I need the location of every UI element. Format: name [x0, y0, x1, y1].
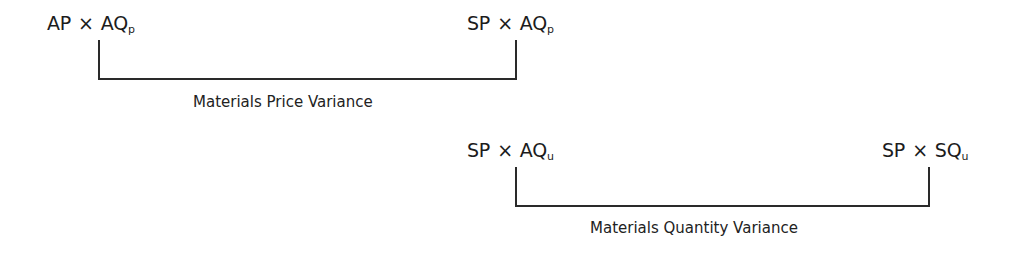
subscript-u: u [961, 150, 968, 163]
factor-aq: AQ [520, 12, 547, 34]
quantity-bracket-left-line [515, 167, 517, 207]
price-bracket-right-line [515, 40, 517, 80]
materials-price-variance-label: Materials Price Variance [193, 93, 373, 111]
price-bracket-left-line [98, 40, 100, 80]
subscript-u: u [547, 150, 554, 163]
factor-sp: SP [467, 139, 490, 161]
quantity-bracket-bottom-line [515, 205, 930, 207]
factor-aq: AQ [520, 139, 547, 161]
factor-sp: SP [882, 139, 905, 161]
term-ap-x-aqp: AP×AQp [47, 12, 135, 41]
term-sp-x-aqp: SP×AQp [467, 12, 554, 41]
subscript-p: p [547, 23, 554, 36]
factor-sp: SP [467, 12, 490, 34]
multiply-sign: × [497, 12, 513, 34]
term-sp-x-squ: SP×SQu [882, 139, 968, 168]
multiply-sign: × [912, 139, 928, 161]
factor-ap: AP [47, 12, 71, 34]
price-bracket-bottom-line [98, 78, 517, 80]
quantity-bracket-right-line [928, 167, 930, 207]
multiply-sign: × [497, 139, 513, 161]
subscript-p: p [128, 23, 135, 36]
term-sp-x-aqu: SP×AQu [467, 139, 554, 168]
multiply-sign: × [78, 12, 94, 34]
materials-quantity-variance-label: Materials Quantity Variance [590, 219, 798, 237]
factor-aq: AQ [101, 12, 128, 34]
factor-sq: SQ [935, 139, 962, 161]
